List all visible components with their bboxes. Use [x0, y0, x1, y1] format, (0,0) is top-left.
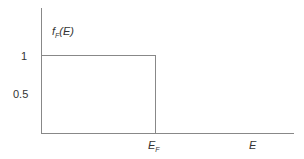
step-drop-line: [155, 55, 156, 134]
y-axis-label: fF(E): [52, 25, 74, 39]
y-tick-1: 1: [21, 50, 27, 62]
x-axis: [41, 133, 294, 134]
step-top-line: [41, 55, 156, 56]
y-tick-0.5: 0.5: [13, 88, 28, 100]
x-tick-ef: EF: [148, 139, 160, 153]
y-axis: [41, 8, 42, 134]
x-axis-label: E: [249, 139, 256, 151]
